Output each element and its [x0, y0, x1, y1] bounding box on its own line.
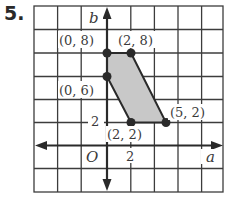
point-0-6 — [103, 72, 112, 81]
label-point-0-6: (0, 6) — [59, 83, 94, 98]
a-axis-arrow-left — [35, 141, 47, 150]
coordinate-graph: (0, 8) (2, 8) (0, 6) (2, 2) (5, 2) 2 2 O… — [0, 0, 237, 205]
y-tick-label: 2 — [91, 114, 99, 129]
origin-label: O — [86, 148, 98, 166]
point-2-8 — [127, 49, 136, 58]
point-0-8 — [103, 49, 112, 58]
b-axis-arrow-down — [103, 179, 112, 191]
label-point-0-8: (0, 8) — [59, 33, 94, 48]
b-axis-arrow-up — [103, 7, 112, 19]
shaded-quadrilateral — [107, 53, 166, 123]
x-tick-label: 2 — [126, 149, 134, 164]
label-point-2-2: (2, 2) — [107, 127, 142, 142]
label-point-2-8: (2, 8) — [118, 33, 153, 48]
point-2-2 — [127, 118, 136, 127]
a-axis-label: a — [206, 148, 215, 166]
label-point-5-2: (5, 2) — [170, 105, 205, 120]
b-axis-label: b — [89, 9, 99, 27]
